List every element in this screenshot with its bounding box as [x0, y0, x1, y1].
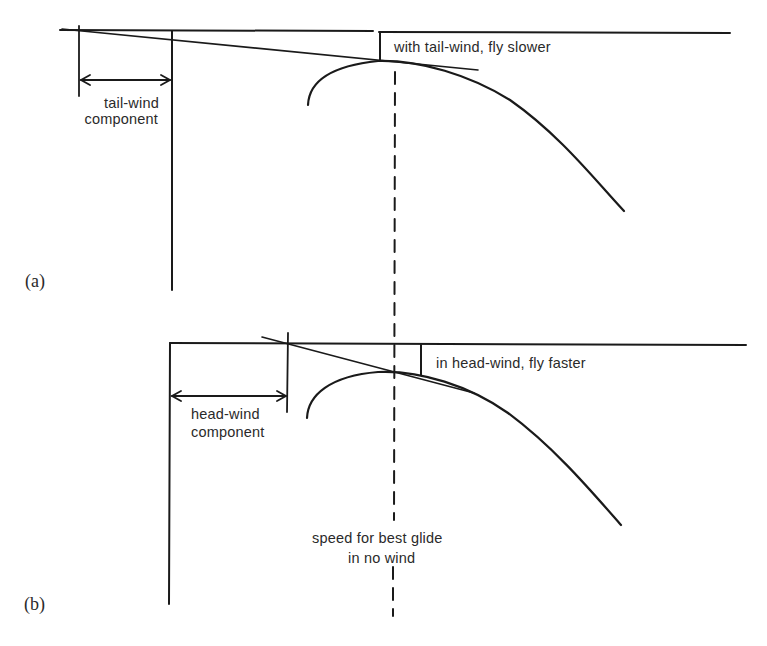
panel-b-wind-origin-tick: [287, 333, 288, 412]
panel-b-vertical-axis: [169, 343, 170, 604]
panel-b-annotation: in head-wind, fly faster: [436, 355, 586, 371]
panel-a-label: (a): [25, 271, 45, 292]
best-glide-reference-dashed-line-upper: [394, 72, 395, 520]
reference-label-line1: speed for best glide: [312, 530, 443, 546]
panel-b-polar-curve: [307, 372, 621, 525]
panel-a: tail-wind component with tail-wind, fly …: [25, 26, 730, 292]
panel-b-component-label-line1: head-wind: [191, 406, 260, 422]
panel-b: head-wind component in head-wind, fly fa…: [24, 333, 746, 615]
panel-b-component-label-line2: component: [191, 424, 265, 440]
panel-a-annotation: with tail-wind, fly slower: [393, 39, 551, 55]
panel-b-horizontal-axis: [170, 343, 746, 345]
panel-a-horizontal-axis-right: [379, 32, 730, 33]
panel-a-component-label-line1: tail-wind: [104, 95, 159, 111]
glide-speed-polar-diagram: tail-wind component with tail-wind, fly …: [0, 0, 767, 646]
panel-a-component-label-line2: component: [84, 111, 158, 127]
panel-a-component-arrow: [81, 75, 170, 85]
panel-a-polar-curve: [308, 61, 624, 211]
reference-label-line2: in no wind: [348, 550, 415, 566]
panel-a-horizontal-axis-left: [60, 30, 373, 31]
panel-b-label: (b): [24, 594, 45, 615]
panel-b-component-arrow: [172, 391, 286, 401]
